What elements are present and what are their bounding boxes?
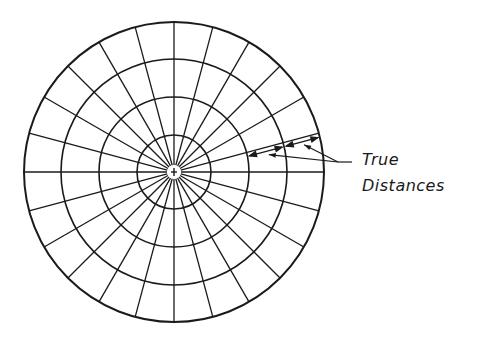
arrowhead bbox=[249, 152, 256, 157]
leader-arrowhead bbox=[269, 153, 276, 158]
annotation-label-true: True bbox=[362, 152, 399, 168]
radial-line bbox=[176, 27, 213, 165]
polar-grid-diagram bbox=[0, 0, 477, 338]
radial-line bbox=[29, 174, 167, 211]
arrowhead bbox=[275, 146, 283, 151]
radial-line bbox=[181, 133, 319, 170]
arrowhead bbox=[311, 137, 318, 142]
radial-line bbox=[68, 177, 169, 278]
annotation-label-distances: Distances bbox=[362, 178, 445, 194]
arrowhead bbox=[286, 142, 294, 147]
leader-arrowhead bbox=[304, 145, 311, 150]
radial-line bbox=[179, 177, 280, 278]
radial-line bbox=[135, 27, 172, 165]
radial-line bbox=[29, 133, 167, 170]
center-plus-marker bbox=[168, 166, 180, 178]
leader-line bbox=[269, 155, 338, 162]
radial-line bbox=[135, 179, 172, 317]
radial-line bbox=[181, 174, 319, 211]
radial-line bbox=[176, 179, 213, 317]
radial-line bbox=[68, 66, 169, 167]
